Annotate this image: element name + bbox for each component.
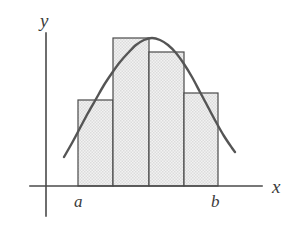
riemann-rectangle bbox=[113, 38, 149, 186]
riemann-rectangles bbox=[78, 38, 218, 186]
riemann-sum-figure: x y a b bbox=[0, 0, 295, 234]
riemann-rectangle bbox=[78, 100, 113, 186]
x-axis-label: x bbox=[271, 176, 281, 197]
upper-bound-label-b: b bbox=[211, 192, 220, 211]
figure-canvas: x y a b bbox=[0, 0, 295, 234]
lower-bound-label-a: a bbox=[74, 192, 83, 211]
riemann-rectangle bbox=[184, 93, 218, 186]
riemann-rectangle bbox=[149, 52, 184, 186]
y-axis-label: y bbox=[38, 10, 49, 31]
